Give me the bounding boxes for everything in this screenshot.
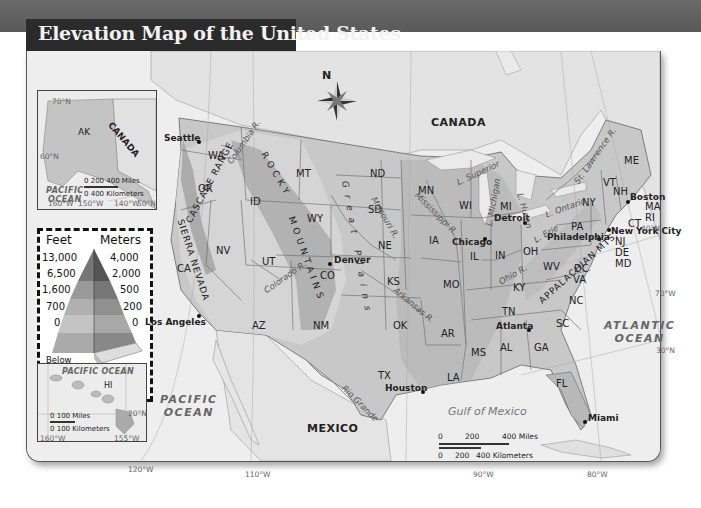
legend-feet-6500: 6,500 xyxy=(47,268,76,279)
grid-70w: 70°W xyxy=(655,289,676,298)
state-ut: UT xyxy=(262,256,275,267)
city-houston: Houston xyxy=(385,383,427,393)
state-nc: NC xyxy=(569,295,583,306)
city-boston: Boston xyxy=(630,192,665,202)
hawaii-scale-miles: 0 100 Miles xyxy=(50,412,90,420)
state-az: AZ xyxy=(252,320,266,331)
city-los-angeles: Los Angeles xyxy=(145,317,206,327)
state-nd: ND xyxy=(370,168,385,179)
grid-120w: 120°W xyxy=(128,465,153,474)
hawaii-scale-km: 0 100 Kilometers xyxy=(50,425,110,433)
alaska-scale-km: 0 400 Kilometers xyxy=(84,190,144,198)
state-mo: MO xyxy=(443,279,460,290)
state-id: ID xyxy=(250,196,261,207)
grid-90w: 90°W xyxy=(473,470,494,479)
state-wi: WI xyxy=(459,200,472,211)
state-tn: TN xyxy=(502,306,516,317)
city-dot-denver xyxy=(328,262,332,266)
city-miami: Miami xyxy=(588,413,619,423)
state-sc: SC xyxy=(556,318,569,329)
city-chicago: Chicago xyxy=(452,237,492,247)
map-title: Elevation Map of the United States xyxy=(38,22,401,44)
state-in: IN xyxy=(495,250,505,261)
state-tx: TX xyxy=(378,370,391,381)
gulf-of-mexico-label: Gulf of Mexico xyxy=(448,405,527,418)
alaska-lat-50: 50°N xyxy=(137,199,156,208)
atlantic-ocean-label: ATLANTICOCEAN xyxy=(604,319,675,345)
state-ok: OK xyxy=(393,320,407,331)
state-wv: WV xyxy=(543,261,560,272)
alaska-scale-bar xyxy=(84,186,118,188)
city-denver: Denver xyxy=(334,255,370,265)
state-md: MD xyxy=(615,258,631,269)
alaska-lon-140: 140°W xyxy=(114,199,139,208)
alaska-lat-60: 60°N xyxy=(40,152,59,161)
legend-feet-header: Feet xyxy=(46,233,72,247)
alaska-lat-70: 70°N xyxy=(52,97,71,106)
legend-feet-700: 700 xyxy=(46,301,65,312)
country-canada: CANADA xyxy=(431,116,486,129)
scale-miles-200: 200 xyxy=(465,432,479,441)
hawaii-scale-bar xyxy=(50,421,75,423)
state-fl: FL xyxy=(556,378,567,389)
hawaii-state-label: HI xyxy=(104,381,112,390)
legend-meters-200: 200 xyxy=(123,301,142,312)
scale-bar-miles xyxy=(439,443,509,445)
legend-meters-4000: 4,000 xyxy=(110,252,139,263)
state-il: IL xyxy=(470,251,479,262)
country-mexico: MEXICO xyxy=(307,422,358,435)
alaska-pacific-ocean-label: PACIFICOCEAN xyxy=(46,186,84,204)
grid-110w: 110°W xyxy=(245,470,270,479)
state-co: CO xyxy=(320,270,335,281)
state-al: AL xyxy=(500,342,512,353)
scale-miles-400: 400 Miles xyxy=(502,432,538,441)
state-ms: MS xyxy=(471,347,486,358)
state-ma: MA xyxy=(645,201,660,212)
state-wy: WY xyxy=(307,213,323,224)
state-de: DE xyxy=(615,247,629,258)
hawaii-lat-20: 20°N xyxy=(128,409,147,418)
hawaii-pacific-ocean-label: PACIFIC OCEAN xyxy=(62,365,134,378)
grid-80w: 80°W xyxy=(587,470,608,479)
state-ga: GA xyxy=(534,342,549,353)
state-ky: KY xyxy=(513,282,525,293)
city-atlanta: Atlanta xyxy=(496,321,533,331)
state-ne: NE xyxy=(378,240,392,251)
grid-40n: 40°N xyxy=(641,224,660,233)
state-nm: NM xyxy=(313,320,329,331)
state-pa: PA xyxy=(571,221,583,232)
legend-meters-500: 500 xyxy=(120,284,139,295)
state-oh: OH xyxy=(523,246,538,257)
legend-feet-13000: 13,000 xyxy=(42,252,77,263)
state-nv: NV xyxy=(216,245,230,256)
legend-meters-2000: 2,000 xyxy=(112,268,141,279)
alaska-scale-miles: 0 200 400 Miles xyxy=(84,177,140,185)
scale-miles-0: 0 xyxy=(438,432,443,441)
scale-km-0: 0 xyxy=(438,451,443,460)
compass-north-label: N xyxy=(322,69,331,82)
state-mt: MT xyxy=(296,168,311,179)
state-ri: RI xyxy=(645,212,655,223)
grid-30n: 30°N xyxy=(656,346,675,355)
legend-feet-0: 0 xyxy=(54,317,60,328)
hawaii-lon-155: 155°W xyxy=(114,434,139,443)
state-nh: NH xyxy=(613,186,628,197)
legend-feet-1600: 1,600 xyxy=(42,284,71,295)
state-la: LA xyxy=(447,372,460,383)
state-me: ME xyxy=(624,155,639,166)
state-ar: AR xyxy=(441,328,455,339)
city-dot-miami xyxy=(583,420,587,424)
city-seattle: Seattle xyxy=(164,133,200,143)
scale-km-200: 200 xyxy=(455,451,469,460)
state-ia: IA xyxy=(429,235,439,246)
alaska-state-label: AK xyxy=(78,127,90,137)
scale-bar-km xyxy=(439,447,481,449)
pacific-ocean-label: PACIFICOCEAN xyxy=(160,393,218,419)
scale-km-400: 400 Kilometers xyxy=(476,451,533,460)
legend-meters-0: 0 xyxy=(132,317,138,328)
hawaii-lon-160: 160°W xyxy=(40,434,65,443)
legend-meters-header: Meters xyxy=(100,233,141,247)
state-mi: MI xyxy=(500,201,512,212)
